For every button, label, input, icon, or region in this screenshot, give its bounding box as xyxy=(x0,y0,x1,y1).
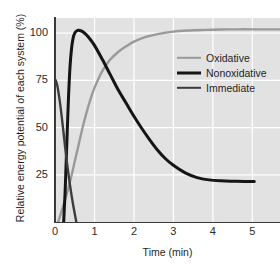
legend-item-nonoxidative: Nonoxidative xyxy=(176,65,280,80)
legend-label-nonoxidative: Nonoxidative xyxy=(202,67,267,79)
legend-label-oxidative: Oxidative xyxy=(202,52,250,64)
legend-swatch-oxidative xyxy=(176,52,202,64)
plot-svg xyxy=(55,18,280,222)
y-axis-line xyxy=(54,17,56,223)
x-tick-label-5: 5 xyxy=(242,226,262,237)
legend-swatch-immediate xyxy=(176,82,202,94)
x-tick-label-4: 4 xyxy=(203,226,223,237)
legend-item-oxidative: Oxidative xyxy=(176,50,280,65)
x-tick-label-0: 0 xyxy=(45,226,65,237)
x-tick-label-1: 1 xyxy=(84,226,104,237)
gridlines xyxy=(55,18,280,222)
y-axis-title: Relative energy potential of each system… xyxy=(14,5,26,231)
legend-swatch-nonoxidative xyxy=(176,67,202,79)
chart-legend: Oxidative Nonoxidative Immediate xyxy=(176,50,280,95)
legend-item-immediate: Immediate xyxy=(176,80,280,95)
x-tick-label-2: 2 xyxy=(124,226,144,237)
x-axis-title: Time (min) xyxy=(55,246,280,258)
plot-area xyxy=(55,18,280,222)
chart-figure: 100755025 012345 Relative energy potenti… xyxy=(0,0,280,267)
x-axis-line xyxy=(54,222,280,224)
x-tick-label-3: 3 xyxy=(163,226,183,237)
legend-label-immediate: Immediate xyxy=(202,82,255,94)
